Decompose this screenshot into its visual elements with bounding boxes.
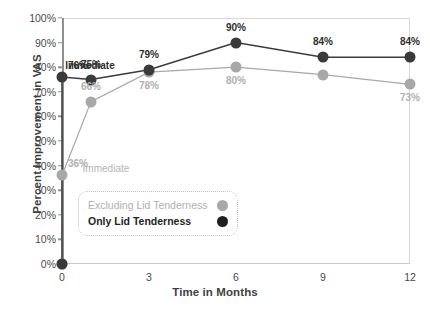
x-tick-label: 9 <box>320 271 326 283</box>
x-tick-label: 6 <box>233 271 239 283</box>
data-point-marker <box>405 79 416 90</box>
data-point-marker <box>57 72 68 83</box>
chart-legend: Excluding Lid Tenderness Only Lid Tender… <box>78 191 238 236</box>
data-point-label: 66% <box>81 81 101 92</box>
y-tick-label: 40% <box>35 160 56 172</box>
y-tick-label: 30% <box>35 184 56 196</box>
data-point-marker <box>318 69 329 80</box>
data-point-marker <box>318 52 329 63</box>
legend-item-only-lid-tenderness: Only Lid Tenderness <box>88 213 228 229</box>
x-tick-label: 0 <box>59 271 65 283</box>
y-tick-label: 60% <box>35 110 56 122</box>
y-tick-label: 70% <box>35 86 56 98</box>
legend-marker-icon <box>217 216 228 227</box>
data-point-marker <box>86 96 97 107</box>
data-point-marker <box>57 170 68 181</box>
y-tick-label: 90% <box>35 37 56 49</box>
plot-area: 0%10%20%30%40%50%60%70%80%90%100% 036912… <box>62 18 410 264</box>
data-point-marker <box>231 37 242 48</box>
data-point-marker <box>405 52 416 63</box>
data-point-label: 78% <box>139 80 159 91</box>
legend-marker-icon <box>217 200 228 211</box>
data-point-label: 79% <box>139 49 159 60</box>
data-point-marker <box>57 259 68 270</box>
y-tick-label: 50% <box>35 135 56 147</box>
x-axis-title: Time in Months <box>0 286 430 298</box>
y-tick-label: 20% <box>35 209 56 221</box>
x-tick-label: 3 <box>146 271 152 283</box>
annotation-label: Immediate <box>83 163 130 174</box>
x-tick-label: 12 <box>404 271 416 283</box>
y-tick-label: 100% <box>29 12 56 24</box>
legend-label: Only Lid Tenderness <box>88 215 191 227</box>
data-point-label: 73% <box>400 92 420 103</box>
legend-label: Excluding Lid Tenderness <box>88 199 207 211</box>
y-tick-label: 10% <box>35 233 56 245</box>
data-point-label: 84% <box>400 36 420 47</box>
data-point-label: 90% <box>226 22 246 33</box>
y-tick-label: 80% <box>35 61 56 73</box>
legend-item-excluding-lid-tenderness: Excluding Lid Tenderness <box>88 197 228 213</box>
data-point-marker <box>144 64 155 75</box>
data-point-label: 80% <box>226 75 246 86</box>
data-point-label: 84% <box>313 36 333 47</box>
annotation-label: Immediate <box>65 60 114 71</box>
data-point-marker <box>231 62 242 73</box>
y-tick-label: 0% <box>41 258 56 270</box>
chart-container: Percent Improvement in VAS Time in Month… <box>0 0 430 310</box>
